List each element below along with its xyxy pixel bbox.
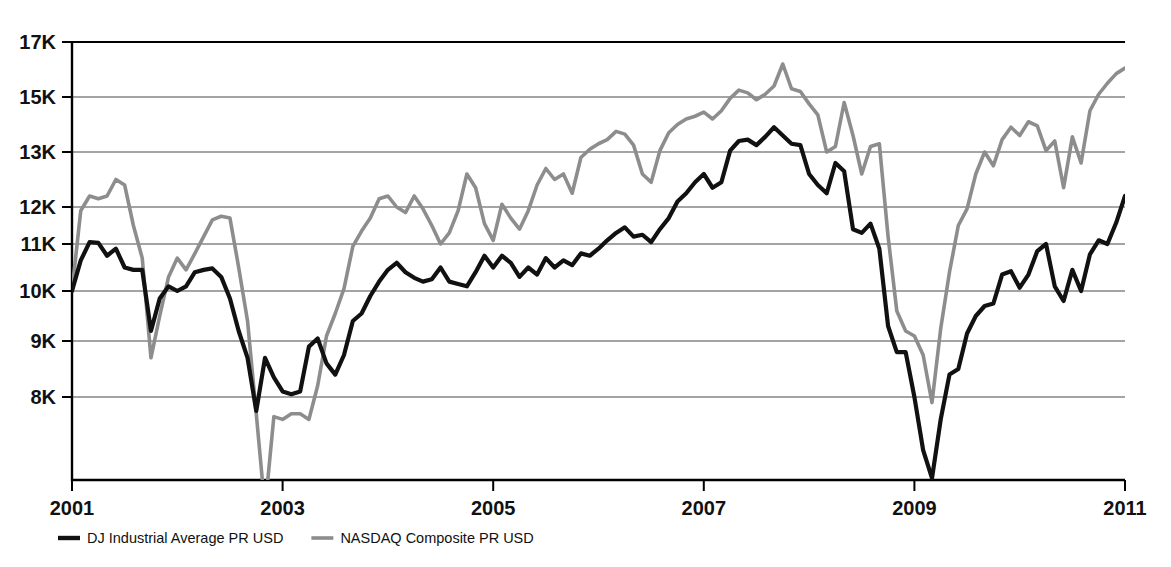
- y-tick-label: 9K: [30, 330, 56, 352]
- y-axis-ticks: 8K9K10K11K12K13K15K17K: [19, 31, 72, 408]
- x-tick-label: 2001: [50, 497, 95, 519]
- legend-label-1: NASDAQ Composite PR USD: [340, 530, 533, 546]
- x-axis-ticks: 200120032005200720092011: [50, 480, 1147, 519]
- y-tick-label: 8K: [30, 386, 56, 408]
- x-tick-label: 2009: [892, 497, 937, 519]
- legend-label-0: DJ Industrial Average PR USD: [87, 530, 283, 546]
- series-line-nasdaq: [72, 64, 1125, 509]
- x-tick-label: 2003: [260, 497, 305, 519]
- index-comparison-line-chart: 8K9K10K11K12K13K15K17K 20012003200520072…: [0, 0, 1171, 567]
- y-tick-label: 10K: [19, 280, 56, 302]
- chart-legend: DJ Industrial Average PR USDNASDAQ Compo…: [58, 530, 534, 546]
- x-tick-label: 2005: [471, 497, 516, 519]
- y-tick-label: 11K: [20, 233, 56, 255]
- plot-axes: [72, 42, 1125, 480]
- y-tick-label: 13K: [19, 141, 56, 163]
- y-tick-label: 17K: [19, 31, 56, 53]
- series-line-dj: [72, 127, 1125, 478]
- axis-frame: [72, 42, 1125, 480]
- chart-container: 8K9K10K11K12K13K15K17K 20012003200520072…: [0, 0, 1171, 567]
- y-tick-label: 12K: [19, 196, 56, 218]
- series-lines: [72, 64, 1125, 509]
- x-tick-label: 2011: [1103, 497, 1146, 519]
- x-tick-label: 2007: [682, 497, 727, 519]
- y-tick-label: 15K: [19, 86, 56, 108]
